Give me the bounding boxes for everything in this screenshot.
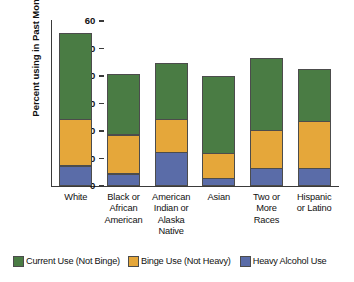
legend-label-current-use: Current Use (Not Binge) xyxy=(26,256,120,267)
x-axis-label-line: Two or xyxy=(243,192,291,203)
x-axis-label-line: Hispanic xyxy=(290,192,338,203)
bar-segment[interactable] xyxy=(202,178,235,186)
bar-stack xyxy=(202,76,235,186)
bar-segment[interactable] xyxy=(298,168,331,186)
x-axis-label-line: Black or xyxy=(100,192,148,203)
bar-segment[interactable] xyxy=(250,130,283,169)
stacked-bar-chart: Percent using in Past Month 010203040506… xyxy=(0,0,354,282)
bar-group[interactable] xyxy=(298,21,331,186)
bar-segment[interactable] xyxy=(155,63,188,120)
legend-label-binge-use: Binge Use (Not Heavy) xyxy=(141,256,231,267)
x-axis-label-line: Races xyxy=(243,215,291,226)
x-axis-label-line: or Latino xyxy=(290,203,338,214)
x-axis-label: Two orMoreRaces xyxy=(243,192,291,226)
x-axis-label-line: American xyxy=(147,192,195,203)
x-axis-label: Hispanicor Latino xyxy=(290,192,338,215)
bar-stack xyxy=(107,75,140,186)
bar-group[interactable] xyxy=(59,21,92,186)
x-axis-label-line: African xyxy=(100,203,148,214)
y-axis-tick-mark xyxy=(99,20,104,21)
bar-segment[interactable] xyxy=(155,152,188,186)
bar-group[interactable] xyxy=(250,21,283,186)
bar-segment[interactable] xyxy=(202,153,235,179)
bar-segment[interactable] xyxy=(155,119,188,153)
bar-segment[interactable] xyxy=(202,76,235,154)
bar-stack xyxy=(155,64,188,186)
bar-stack xyxy=(250,58,283,186)
x-axis-label-line: More xyxy=(243,203,291,214)
bar-segment[interactable] xyxy=(107,74,140,136)
bar-group[interactable] xyxy=(107,21,140,186)
x-axis-label-line: Indian or xyxy=(147,203,195,214)
bar-stack xyxy=(59,33,92,186)
x-axis-label-line: American xyxy=(100,215,148,226)
bar-segment[interactable] xyxy=(59,33,92,120)
legend-label-heavy-alcohol: Heavy Alcohol Use xyxy=(253,256,327,267)
y-axis-tick-mark xyxy=(99,75,104,76)
bar-segment[interactable] xyxy=(298,121,331,169)
legend-swatch-heavy-alcohol xyxy=(240,256,251,267)
bar-segment[interactable] xyxy=(59,119,92,167)
bar-stack xyxy=(298,69,331,186)
legend-swatch-current-use xyxy=(13,256,24,267)
bar-segment[interactable] xyxy=(250,58,283,131)
legend-item-heavy-alcohol: Heavy Alcohol Use xyxy=(240,256,327,267)
y-axis-tick-mark xyxy=(99,130,104,131)
y-axis-tick-mark xyxy=(99,158,104,159)
chart-legend: Current Use (Not Binge) Binge Use (Not H… xyxy=(13,256,343,267)
x-axis-label-line: Asian xyxy=(195,192,243,203)
y-axis-tick-mark xyxy=(99,185,104,186)
x-axis-label: White xyxy=(52,192,100,203)
legend-swatch-binge-use xyxy=(128,256,139,267)
x-axis-label: Asian xyxy=(195,192,243,203)
y-axis-tick-mark xyxy=(99,48,104,49)
bar-group[interactable] xyxy=(202,21,235,186)
bar-segment[interactable] xyxy=(298,69,331,122)
x-axis-label: Black orAfricanAmerican xyxy=(100,192,148,226)
legend-item-current-use: Current Use (Not Binge) xyxy=(13,256,120,267)
y-axis-title: Percent using in Past Month xyxy=(30,0,41,133)
bar-group[interactable] xyxy=(155,21,188,186)
bar-segment[interactable] xyxy=(107,174,140,186)
plot-area: 0102030405060 xyxy=(52,21,338,186)
x-axis-label-line: White xyxy=(52,192,100,203)
bar-segment[interactable] xyxy=(59,166,92,186)
y-axis-tick-mark xyxy=(99,103,104,104)
x-axis-label-line: Alaska xyxy=(147,215,195,226)
x-axis-label-line: Native xyxy=(147,226,195,237)
bar-segment[interactable] xyxy=(250,168,283,186)
legend-item-binge-use: Binge Use (Not Heavy) xyxy=(128,256,231,267)
bar-segment[interactable] xyxy=(107,135,140,175)
x-axis-label: AmericanIndian orAlaskaNative xyxy=(147,192,195,238)
